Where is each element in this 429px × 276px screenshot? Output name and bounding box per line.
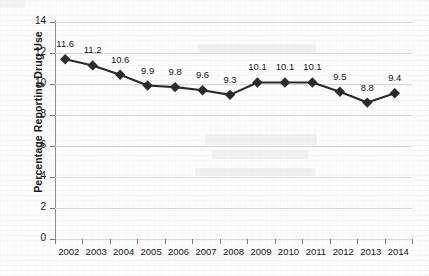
data-point-marker — [335, 87, 345, 97]
data-point-label: 9.5 — [319, 71, 361, 82]
data-point-marker — [60, 54, 70, 64]
data-point-marker — [390, 88, 400, 98]
data-point-marker — [225, 90, 235, 100]
data-point-marker — [280, 77, 290, 87]
data-point-label: 9.3 — [209, 74, 251, 85]
data-point-label: 9.4 — [374, 72, 416, 83]
data-point-marker — [307, 77, 317, 87]
data-point-marker — [362, 97, 372, 107]
chart-screenshot: Percentage Reporting Drug Use 0246810121… — [0, 0, 429, 276]
data-point-marker — [170, 82, 180, 92]
data-point-marker — [142, 80, 152, 90]
data-point-marker — [252, 77, 262, 87]
data-point-marker — [87, 60, 97, 70]
data-point-marker — [197, 85, 207, 95]
data-point-label: 10.6 — [99, 54, 141, 65]
data-point-marker — [115, 70, 125, 80]
